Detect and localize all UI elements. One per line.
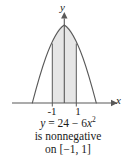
x-tick-label-one: 1: [67, 106, 89, 117]
equation-operator: = 24 − 6: [45, 117, 87, 129]
x-tick-label-negative-one: -1: [41, 106, 63, 117]
y-axis-label: y: [60, 2, 65, 13]
figure-caption: y = 24 − 6x2 is nonnegative on [−1, 1]: [0, 117, 136, 156]
parabola-figure: y x -1 1 y = 24 − 6x2 is nonnegative on …: [0, 0, 136, 161]
x-axis-label: x: [116, 95, 121, 106]
caption-equation-line: y = 24 − 6x2: [0, 117, 136, 130]
caption-line-interval: on [−1, 1]: [0, 143, 136, 156]
equation-exponent: 2: [92, 115, 96, 124]
caption-line-nonnegative: is nonnegative: [0, 130, 136, 143]
